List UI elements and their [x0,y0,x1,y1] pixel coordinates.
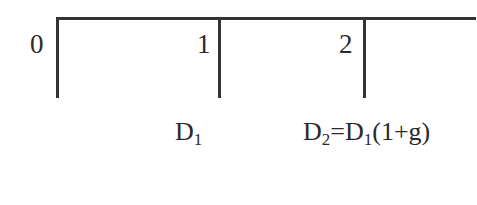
period-0-tick [56,17,59,98]
growth-factor: (1+g) [372,117,430,146]
period-1-tick [218,17,221,98]
period-0-label: 0 [30,29,44,59]
period-2-label: 2 [339,29,353,59]
period-2-tick [363,17,366,98]
timeline-axis [56,17,476,20]
dividend-2-formula: D2=D1(1+g) [303,117,430,147]
formula-d-symbol: D [345,117,364,146]
dividend-1-label: D1 [175,117,202,147]
equals-sign: = [330,117,345,146]
dividend-2-subscript: 2 [322,130,331,149]
formula-d-subscript: 1 [364,130,373,149]
dividend-1-symbol: D [175,117,194,146]
dividend-1-subscript: 1 [194,130,203,149]
cash-flow-timeline: 0 1 2 D1 D2=D1(1+g) [0,0,477,205]
period-1-label: 1 [197,29,211,59]
dividend-2-symbol: D [303,117,322,146]
